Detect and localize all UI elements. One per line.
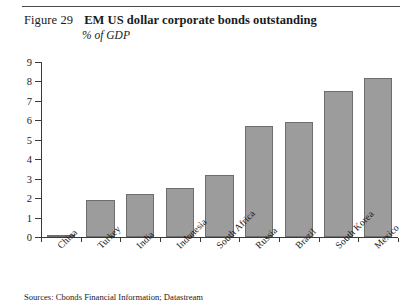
x-axis-tick [41, 238, 42, 242]
x-axis-tick [81, 238, 82, 242]
y-axis-tick-label: 4 [12, 154, 32, 165]
y-axis-tick [35, 218, 41, 219]
y-axis-tick-label: 7 [12, 95, 32, 106]
y-axis-tick-label: 2 [12, 193, 32, 204]
y-axis-tick-label: 0 [12, 232, 32, 243]
bar [285, 122, 314, 237]
y-axis-tick [35, 81, 41, 82]
y-axis-tick [35, 120, 41, 121]
x-axis-tick [239, 238, 240, 242]
x-axis-tick [160, 238, 161, 242]
y-axis-tick-label: 8 [12, 76, 32, 87]
y-axis-tick [35, 140, 41, 141]
x-axis-category-label: China [55, 226, 79, 250]
x-axis-tick [200, 238, 201, 242]
y-axis-tick-label: 1 [12, 212, 32, 223]
bar [324, 91, 353, 237]
y-axis-tick [35, 179, 41, 180]
x-axis-tick [319, 238, 320, 242]
x-axis-tick [279, 238, 280, 242]
y-axis-tick [35, 101, 41, 102]
y-axis-tick-label: 5 [12, 134, 32, 145]
y-axis-tick-label: 9 [12, 57, 32, 68]
y-axis-line [41, 62, 42, 238]
y-axis-tick [35, 62, 41, 63]
y-axis-tick [35, 198, 41, 199]
x-axis-tick [358, 238, 359, 242]
y-axis-tick-label: 3 [12, 173, 32, 184]
y-axis-tick [35, 159, 41, 160]
x-axis-tick [120, 238, 121, 242]
figure-page: Figure 29 EM US dollar corporate bonds o… [0, 0, 415, 308]
y-axis-tick-label: 6 [12, 115, 32, 126]
bar-chart-plot: 0123456789 ChinaTurkeyIndiaIndonesiaSout… [0, 0, 415, 308]
source-note: Sources: Cbonds Financial Information; D… [24, 292, 203, 302]
x-axis-tick [398, 238, 399, 242]
